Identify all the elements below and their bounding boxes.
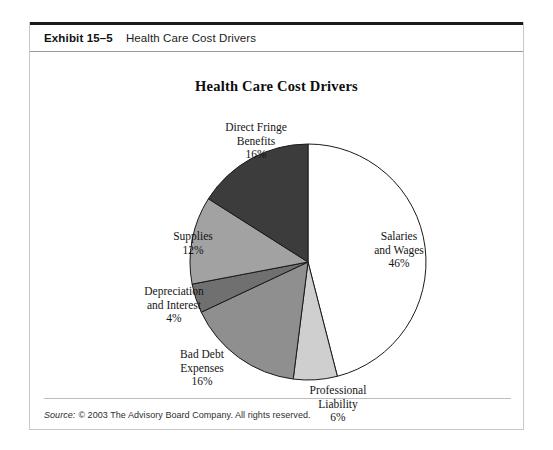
pie-label-percent: 46%: [344, 257, 454, 271]
exhibit-frame: Exhibit 15–5 Health Care Cost Drivers He…: [29, 22, 524, 430]
pie-label-line1: Direct Fringe: [225, 121, 287, 133]
pie-chart-svg: [30, 53, 525, 399]
pie-label-line1: Bad Debt: [180, 348, 224, 360]
pie-label-percent: 12%: [143, 244, 243, 258]
pie-label-line1: Supplies: [173, 230, 213, 242]
pie-label-line2: Expenses: [180, 362, 223, 374]
pie-label-line1: Depreciation: [144, 285, 203, 297]
pie-label-bad-debt-expenses: Bad Debt Expenses 16%: [147, 348, 257, 389]
pie-label-line2: and Interest: [147, 299, 201, 311]
pie-label-line2: and Wages: [374, 244, 424, 256]
source-note: Source:© 2003 The Advisory Board Company…: [44, 410, 311, 420]
pie-label-line1: Salaries: [381, 230, 417, 242]
pie-label-line2: Benefits: [237, 135, 275, 147]
pie-label-percent: 4%: [114, 312, 234, 326]
pie-label-supplies: Supplies 12%: [143, 230, 243, 257]
chart-body: Health Care Cost Drivers Direct Fringe B…: [30, 53, 523, 398]
source-divider: [44, 398, 511, 399]
pie-label-line1: Professional: [310, 384, 367, 396]
exhibit-number: Exhibit 15–5: [44, 32, 113, 44]
exhibit-header: Exhibit 15–5 Health Care Cost Drivers: [30, 25, 523, 52]
exhibit-header-title: Health Care Cost Drivers: [126, 32, 256, 44]
pie-label-line2: Liability: [318, 398, 358, 410]
pie-label-salaries-and-wages: Salaries and Wages 46%: [344, 230, 454, 271]
source-text: © 2003 The Advisory Board Company. All r…: [78, 410, 310, 420]
pie-label-percent: 16%: [196, 148, 316, 162]
pie-chart: [30, 53, 523, 398]
pie-label-direct-fringe-benefits: Direct Fringe Benefits 16%: [196, 121, 316, 162]
pie-label-depreciation-and-interest: Depreciation and Interest 4%: [114, 285, 234, 326]
pie-label-percent: 16%: [147, 375, 257, 389]
source-label: Source:: [44, 410, 75, 420]
